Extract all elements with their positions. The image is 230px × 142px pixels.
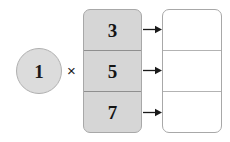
input-cell-value: 5 — [108, 62, 118, 81]
multiplication-sign-icon: × — [63, 61, 80, 80]
input-cell: 3 — [84, 10, 141, 51]
input-cell-value: 7 — [108, 103, 118, 122]
arrow-right-icon — [143, 65, 163, 76]
output-cell[interactable] — [163, 92, 221, 132]
multiplication-diagram: 1 × 3 5 7 — [0, 0, 230, 142]
input-stack: 3 5 7 — [83, 9, 142, 133]
multiplier-circle: 1 — [16, 48, 62, 94]
input-cell-value: 3 — [108, 21, 118, 40]
output-stack — [162, 9, 222, 133]
multiplier-value: 1 — [34, 62, 44, 81]
arrow-right-icon — [143, 107, 163, 118]
output-cell[interactable] — [163, 51, 221, 92]
arrow-right-icon — [143, 24, 163, 35]
input-cell: 7 — [84, 92, 141, 132]
output-cell[interactable] — [163, 10, 221, 51]
input-cell: 5 — [84, 51, 141, 92]
